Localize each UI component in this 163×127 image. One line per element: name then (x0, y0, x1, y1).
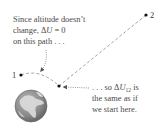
direct-path (59, 15, 146, 86)
point-1-label: 1 (12, 71, 16, 80)
top-annotation-line1: Since altitude doesn’t (13, 15, 86, 24)
bottom-annotation-line1: . . . so ΔU12 is (92, 83, 139, 93)
point-2-label: 2 (150, 11, 154, 20)
top-annotation-line3: on this path . . . (13, 37, 65, 46)
earth-icon (15, 90, 47, 122)
bottom-annotation: . . . so ΔU12 is the same as if we start… (92, 83, 139, 114)
point-1-dot (19, 73, 22, 76)
physics-diagram: 1 2 Since altitude doesn’t change, ΔU = … (0, 0, 163, 127)
top-annotation-arrow (41, 50, 46, 71)
point-mid-dot (57, 84, 60, 87)
bottom-annotation-line3: we start here. (92, 105, 137, 114)
top-annotation: Since altitude doesn’t change, ΔU = 0 on… (13, 15, 86, 46)
bottom-annotation-line2: the same as if (92, 94, 138, 103)
constant-altitude-path (21, 73, 59, 86)
point-2-dot (144, 13, 147, 16)
top-annotation-line2: change, ΔU = 0 (13, 26, 65, 35)
bottom-annotation-arrow (64, 87, 89, 88)
